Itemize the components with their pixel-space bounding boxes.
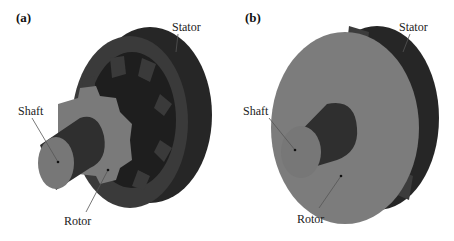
panel-a: (a) Stator Shaft Rotor — [0, 0, 227, 241]
motor-exploded-diagram — [0, 0, 227, 241]
panel-label: (a) — [16, 10, 31, 26]
panel-b: (b) Stator Shaft Rotor — [227, 0, 454, 241]
stator-label: Stator — [172, 20, 201, 35]
motor-assembled-diagram — [227, 0, 454, 241]
shaft-end — [38, 137, 74, 189]
rotor-label: Rotor — [297, 212, 324, 227]
stator-label: Stator — [399, 20, 428, 35]
shaft-label: Shaft — [18, 104, 43, 119]
shaft-label: Shaft — [243, 104, 268, 119]
rotor-label: Rotor — [64, 214, 91, 229]
shaft-end — [281, 126, 321, 178]
panel-label: (b) — [245, 10, 261, 26]
